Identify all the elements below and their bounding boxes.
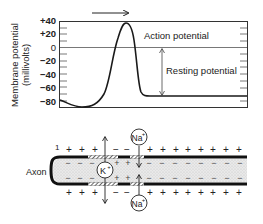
svg-text:+: + xyxy=(92,144,98,155)
svg-text:+: + xyxy=(185,144,191,155)
svg-text:+: + xyxy=(198,144,204,155)
svg-text:−: − xyxy=(113,144,119,155)
svg-text:+: + xyxy=(147,144,153,155)
svg-text:−: − xyxy=(124,144,130,155)
tick-label-0: 0 xyxy=(51,42,56,53)
svg-text:−: − xyxy=(65,173,70,183)
position-marker-1: 1 xyxy=(55,143,60,152)
svg-text:−: − xyxy=(224,158,229,168)
svg-text:−: − xyxy=(198,173,203,183)
svg-text:+: + xyxy=(125,173,130,183)
svg-text:−: − xyxy=(65,158,70,168)
svg-text:−: − xyxy=(237,158,242,168)
svg-text:+: + xyxy=(173,144,179,155)
svg-text:+: + xyxy=(223,187,229,198)
svg-text:−: − xyxy=(211,158,216,168)
tick-label-minus80: −80 xyxy=(40,96,56,107)
svg-text:−: − xyxy=(185,158,190,168)
svg-text:−: − xyxy=(159,173,164,183)
k-ion: K + xyxy=(97,162,113,178)
outside-charges-bottom: + + + − − + + + + + + + + xyxy=(66,187,242,198)
svg-text:+: + xyxy=(210,187,216,198)
na-ion-bottom: Na + xyxy=(131,195,147,211)
na-ion-top: Na + xyxy=(131,129,147,145)
svg-text:+: + xyxy=(236,187,242,198)
membrane-hatched-bottom-na xyxy=(130,183,144,186)
svg-text:+: + xyxy=(142,197,146,203)
svg-text:−: − xyxy=(146,158,151,168)
tick-label-plus40: +40 xyxy=(40,15,56,26)
svg-text:−: − xyxy=(172,173,177,183)
svg-text:+: + xyxy=(79,144,85,155)
outside-charges-top: + + + − − + + + + + + + + xyxy=(66,144,242,155)
membrane-potential-graph: Membrane potential (millivolts) +40 +20 … xyxy=(9,13,248,108)
svg-text:−: − xyxy=(146,173,151,183)
svg-text:+: + xyxy=(114,173,119,183)
y-axis-label: Membrane potential xyxy=(9,23,20,107)
svg-text:−: − xyxy=(159,158,164,168)
svg-text:−: − xyxy=(211,173,216,183)
svg-text:−: − xyxy=(224,173,229,183)
svg-text:+: + xyxy=(142,131,146,137)
tick-label-minus20: −20 xyxy=(40,55,56,66)
left-tick-marks xyxy=(60,28,67,101)
svg-text:−: − xyxy=(77,173,82,183)
svg-text:+: + xyxy=(66,144,72,155)
svg-text:K: K xyxy=(100,166,106,176)
svg-text:+: + xyxy=(107,164,111,170)
svg-text:+: + xyxy=(198,187,204,198)
svg-text:+: + xyxy=(210,144,216,155)
svg-text:+: + xyxy=(79,187,85,198)
right-tick-marks xyxy=(240,28,247,101)
svg-text:−: − xyxy=(198,158,203,168)
svg-text:+: + xyxy=(114,158,119,168)
svg-text:+: + xyxy=(185,187,191,198)
svg-text:+: + xyxy=(66,187,72,198)
svg-text:−: − xyxy=(89,173,94,183)
svg-text:−: − xyxy=(77,158,82,168)
svg-text:−: − xyxy=(124,187,130,198)
svg-text:+: + xyxy=(173,187,179,198)
svg-text:−: − xyxy=(237,173,242,183)
action-potential-label: Action potential xyxy=(144,30,209,41)
tick-label-minus40: −40 xyxy=(40,69,56,80)
svg-text:+: + xyxy=(125,158,130,168)
svg-text:+: + xyxy=(92,187,98,198)
resting-potential-label: Resting potential xyxy=(166,65,237,76)
tick-label-minus60: −60 xyxy=(40,82,56,93)
svg-text:−: − xyxy=(113,187,119,198)
svg-text:+: + xyxy=(236,144,242,155)
svg-text:+: + xyxy=(160,187,166,198)
axon-diagram: Axon 1 + + + − − + + + + + + + + xyxy=(26,129,247,211)
svg-text:+: + xyxy=(160,144,166,155)
membrane-hatched-top-na xyxy=(130,156,144,159)
svg-text:+: + xyxy=(147,187,153,198)
tick-label-plus20: +20 xyxy=(40,28,56,39)
axon-label: Axon xyxy=(26,167,47,177)
svg-text:−: − xyxy=(172,158,177,168)
y-axis-unit-label: (millivolts) xyxy=(20,44,31,86)
svg-text:+: + xyxy=(223,144,229,155)
svg-text:−: − xyxy=(185,173,190,183)
svg-text:−: − xyxy=(89,158,94,168)
